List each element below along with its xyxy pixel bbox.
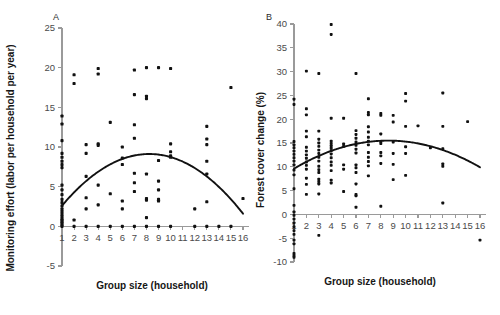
- panel-a-xtick-label: 11: [178, 232, 188, 243]
- data-point: [392, 114, 395, 117]
- data-point: [479, 239, 482, 242]
- data-point: [367, 111, 370, 114]
- panel-b-ytick-label: 10: [276, 161, 287, 172]
- data-point: [305, 164, 308, 167]
- data-point: [305, 153, 308, 156]
- data-point: [317, 234, 320, 237]
- data-point: [367, 164, 370, 167]
- panel-b-letter: B: [266, 12, 272, 22]
- data-point: [379, 154, 382, 157]
- data-point: [109, 121, 112, 124]
- data-point: [305, 150, 308, 153]
- data-point: [293, 153, 296, 156]
- data-point: [133, 69, 136, 72]
- data-point: [145, 225, 148, 228]
- panel-b-y-axis-title: Forest cover change (%): [255, 92, 266, 208]
- data-point: [441, 202, 444, 205]
- data-point: [293, 252, 296, 255]
- data-point: [330, 156, 333, 159]
- data-point: [60, 160, 63, 163]
- data-point: [97, 203, 100, 206]
- data-point: [145, 172, 148, 175]
- data-point: [145, 197, 148, 200]
- data-point: [342, 117, 345, 120]
- data-point: [317, 192, 320, 195]
- data-point: [60, 193, 63, 196]
- data-point: [169, 225, 172, 228]
- data-point: [133, 137, 136, 140]
- panel-a-axes: [58, 28, 249, 266]
- data-point: [85, 143, 88, 146]
- data-point: [330, 169, 333, 172]
- data-point: [205, 125, 208, 128]
- data-point: [85, 152, 88, 155]
- data-point: [205, 138, 208, 141]
- data-point: [367, 125, 370, 128]
- data-point: [441, 162, 444, 165]
- data-point: [441, 125, 444, 128]
- data-point: [379, 205, 382, 208]
- data-point: [121, 225, 124, 228]
- panel-b-xtick-label: 4: [329, 220, 334, 231]
- data-point: [330, 117, 333, 120]
- data-point: [293, 225, 296, 228]
- panel-a-letter: A: [53, 12, 59, 22]
- data-point: [342, 143, 345, 146]
- data-point: [133, 172, 136, 175]
- panel-a-xtick-label: 10: [165, 232, 176, 243]
- data-point: [317, 149, 320, 152]
- data-point: [317, 171, 320, 174]
- data-point: [145, 95, 148, 98]
- data-point: [317, 130, 320, 133]
- data-point: [85, 225, 88, 228]
- data-point: [97, 142, 100, 145]
- data-point: [330, 179, 333, 182]
- data-point: [305, 130, 308, 133]
- panel-a-xtick-label: 2: [71, 232, 76, 243]
- panel-b-ytick-label: 5: [282, 185, 287, 196]
- data-point: [193, 207, 196, 210]
- panel-a-xtick-label: 14: [214, 232, 225, 243]
- panel-b: B -10-5051015202530354012345678910111213…: [252, 0, 500, 315]
- data-point: [367, 136, 370, 139]
- panel-a-xtick-label: 6: [120, 232, 125, 243]
- data-point: [205, 160, 208, 163]
- data-point: [121, 207, 124, 210]
- data-point: [157, 198, 160, 201]
- data-point: [121, 145, 124, 148]
- data-point: [97, 225, 100, 228]
- data-point: [305, 193, 308, 196]
- panel-a-x-axis-title: Group size (household): [96, 280, 208, 291]
- data-point: [355, 163, 358, 166]
- panel-a-xtick-label: 7: [132, 232, 137, 243]
- data-point: [355, 148, 358, 151]
- panel-a-xtick-label: 16: [238, 232, 249, 243]
- data-point: [392, 121, 395, 124]
- data-point: [73, 82, 76, 85]
- data-point: [293, 222, 296, 225]
- panel-b-ytick-label: 35: [276, 42, 287, 53]
- data-point: [293, 150, 296, 153]
- data-point: [60, 156, 63, 159]
- panel-a-plot: A -5051015202512345678910111213141516 Gr…: [0, 0, 252, 315]
- data-point: [229, 225, 232, 228]
- data-point: [73, 218, 76, 221]
- data-point: [293, 239, 296, 242]
- data-point: [133, 190, 136, 193]
- data-point: [317, 142, 320, 145]
- data-point: [355, 137, 358, 140]
- data-point: [317, 138, 320, 141]
- panel-b-ytick-label: 40: [276, 18, 287, 29]
- data-point: [157, 180, 160, 183]
- data-point: [317, 168, 320, 171]
- panel-b-xtick-label: 3: [316, 220, 321, 231]
- panel-b-xtick-label: 2: [304, 220, 309, 231]
- data-point: [305, 70, 308, 73]
- data-point: [121, 163, 124, 166]
- data-point: [330, 164, 333, 167]
- data-point: [60, 166, 63, 169]
- data-point: [305, 157, 308, 160]
- data-point: [97, 72, 100, 75]
- panel-b-xtick-label: 16: [475, 220, 486, 231]
- data-point: [355, 193, 358, 196]
